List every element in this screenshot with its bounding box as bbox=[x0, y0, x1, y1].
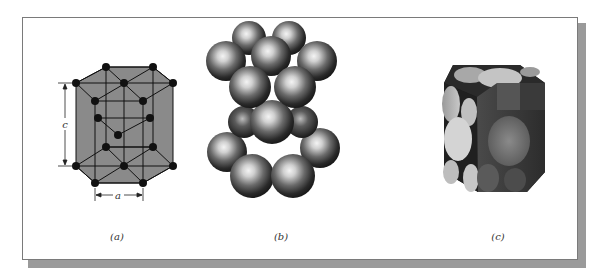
c-dimension-label: c bbox=[62, 119, 68, 130]
a-dimension-label: a bbox=[115, 190, 121, 201]
panel-a-unit-cell bbox=[58, 63, 177, 201]
caption-a: (a) bbox=[110, 231, 124, 242]
hcp-figure bbox=[0, 0, 606, 279]
panel-b-sphere-aggregate bbox=[206, 21, 340, 198]
caption-b: (b) bbox=[274, 231, 288, 242]
caption-c: (c) bbox=[491, 231, 504, 242]
panel-c-sectioned-cell bbox=[442, 65, 545, 192]
